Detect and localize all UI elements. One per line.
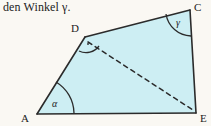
angle-label-alpha: α	[52, 98, 58, 109]
vertex-label-a: A	[21, 112, 29, 124]
vertex-label-e: E	[200, 112, 207, 124]
geometry-svg: α γ A D C E	[0, 0, 211, 126]
angle-dot-delta	[87, 43, 89, 45]
figure-scene: den Winkel γ. α γ A D C E	[0, 0, 211, 126]
vertex-label-c: C	[194, 1, 201, 13]
quadrilateral-fill	[37, 10, 196, 114]
caption-text: den Winkel γ.	[3, 0, 71, 14]
vertex-label-d: D	[71, 22, 79, 34]
edge-e-a	[37, 113, 196, 114]
